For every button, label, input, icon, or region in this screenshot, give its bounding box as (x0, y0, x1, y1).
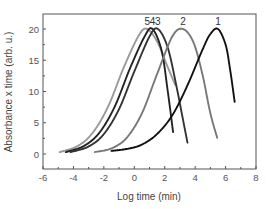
curve-label-3: 3 (155, 16, 161, 27)
y-tick-label: 10 (28, 86, 39, 97)
curve-label-1: 1 (215, 16, 221, 27)
x-tick-label: 0 (132, 172, 137, 183)
x-tick-label: -4 (69, 172, 77, 183)
curve-2 (95, 29, 218, 152)
curve-label-5: 5 (144, 16, 150, 27)
x-tick-label: 8 (253, 172, 258, 183)
data-series-group (60, 28, 235, 152)
y-tick-label: 5 (34, 117, 39, 128)
x-tick-label: 6 (223, 172, 228, 183)
y-axis-label: Absorbance x time (arb. u.) (3, 32, 14, 153)
y-tick-label: 20 (28, 24, 39, 35)
x-axis-label: Log time (min) (117, 191, 181, 202)
x-tick-label: 4 (192, 172, 197, 183)
curve-label-2: 2 (180, 16, 186, 27)
x-tick-label: -2 (100, 172, 108, 183)
curve-label-4: 4 (150, 16, 156, 27)
curve-labels: 12345 (144, 16, 221, 27)
x-tick-label: 2 (162, 172, 167, 183)
chart-figure: -6-4-202468 05101520 12345 Log time (min… (0, 0, 271, 209)
y-tick-label: 15 (28, 55, 39, 66)
y-tick-label: 0 (34, 149, 39, 160)
x-tick-label: -6 (39, 172, 47, 183)
